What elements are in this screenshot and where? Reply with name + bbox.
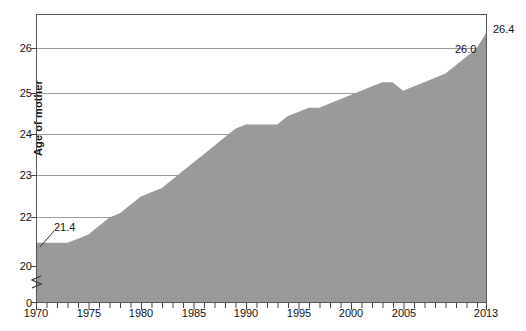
x-tick-label: 1970 [24, 307, 48, 319]
x-tick-label: 2013 [474, 307, 498, 319]
x-tick-label: 1990 [234, 307, 258, 319]
chart-plot [0, 0, 526, 331]
annotation-first-value: 21.4 [54, 221, 75, 233]
annotation-last-value: 26.4 [493, 23, 514, 35]
x-tick-label: 2005 [392, 307, 416, 319]
x-axis-ticks [37, 303, 487, 310]
area-series [36, 32, 487, 303]
x-tick-label: 1985 [182, 307, 206, 319]
annotation-2011-value: 26.0 [455, 43, 476, 55]
chart-container: Age of mother 26 25 24 23 22 20 0 [0, 0, 526, 331]
x-tick-label: 1980 [129, 307, 153, 319]
x-tick-label: 1995 [287, 307, 311, 319]
x-tick-label: 2000 [339, 307, 363, 319]
x-tick-label: 1975 [77, 307, 101, 319]
